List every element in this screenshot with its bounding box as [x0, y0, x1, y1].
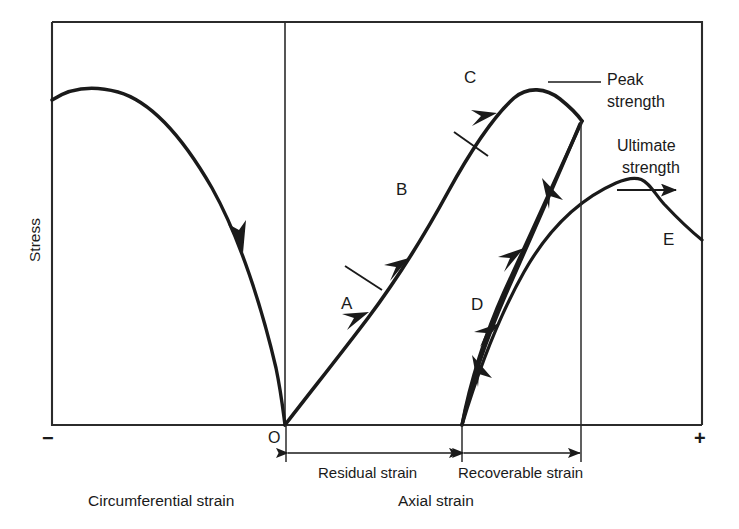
axial-strain-axis-title: Axial strain [398, 492, 474, 510]
peak-strength-callout-line2: strength [607, 93, 665, 111]
ultimate-strength-callout-line1: Ultimate [617, 137, 676, 155]
curve-label-a: A [341, 294, 352, 314]
curve-label-d: D [471, 295, 483, 315]
origin-label: O [268, 429, 280, 447]
loading-curve-tick-1 [345, 266, 382, 290]
negative-axis-sign: − [42, 427, 54, 450]
recoverable-strain-label: Recoverable strain [458, 464, 583, 481]
peak-strength-callout-line1: Peak [607, 71, 643, 89]
y-axis-title: Stress [26, 218, 44, 262]
loading-branch-curve [285, 90, 582, 425]
curve-label-c: C [464, 68, 476, 88]
positive-axis-sign: + [694, 427, 706, 450]
circumferential-strain-axis-title: Circumferential strain [88, 492, 234, 510]
stress-strain-figure: Stress A B C D E Peak strength Ultimate … [0, 0, 739, 529]
curve-label-b: B [396, 180, 407, 200]
axis-frame [52, 22, 702, 425]
ultimate-strength-callout-line2: strength [622, 159, 680, 177]
circumferential-strain-curve [52, 88, 285, 425]
residual-strain-label: Residual strain [318, 464, 417, 481]
curve-label-e: E [663, 230, 674, 250]
